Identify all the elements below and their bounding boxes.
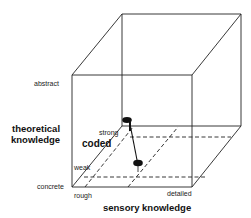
coded-axis-title: coded — [82, 139, 111, 149]
cube-diagram: abstract theoretical knowledge strong co… — [0, 0, 251, 218]
node-connector — [130, 124, 137, 160]
top-right-depth-edge — [192, 14, 241, 75]
theoretical-axis-title-line2: knowledge — [11, 135, 60, 145]
sensory-axis-title: sensory knowledge — [103, 203, 191, 213]
strong-label: strong — [99, 129, 118, 136]
concrete-label: concrete — [37, 183, 64, 190]
upper-node — [122, 117, 132, 123]
lower-node — [133, 160, 143, 166]
bottom-right-depth-edge — [192, 126, 241, 187]
detailed-label: detailed — [167, 190, 192, 197]
dashed-diagonal-left — [85, 127, 133, 187]
dashed-diagonal-right — [128, 127, 178, 187]
weak-label: weak — [74, 164, 90, 171]
top-left-depth-edge — [72, 14, 122, 75]
theoretical-axis-title-line1: theoretical — [12, 124, 60, 134]
rough-label: rough — [74, 192, 92, 199]
abstract-label: abstract — [34, 80, 59, 87]
